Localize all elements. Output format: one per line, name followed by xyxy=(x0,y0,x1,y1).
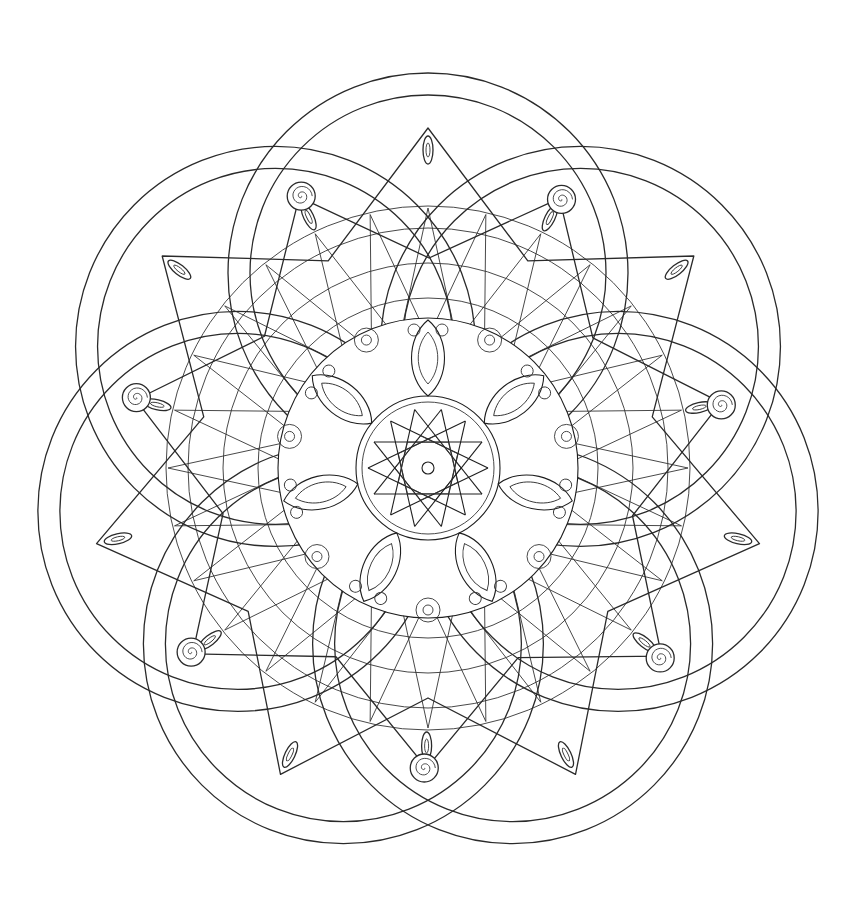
mandala-artwork xyxy=(0,0,865,922)
core-boundary xyxy=(278,318,578,618)
